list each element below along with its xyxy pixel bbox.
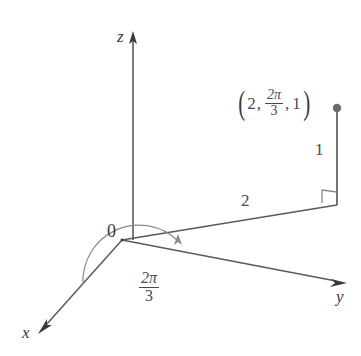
point-comma-1: , [257,95,261,112]
open-paren: ( [238,91,245,115]
close-paren: ) [303,91,310,115]
point-comma-2: , [285,95,289,112]
angle-denominator: 3 [139,288,159,305]
point-r: 2 [247,95,256,112]
origin-vertex [121,239,124,242]
radial-segment [122,205,337,240]
z-axis [129,31,137,240]
vertical-length-label: 1 [315,141,324,158]
point-marker [333,104,341,112]
z-axis-label: z [117,28,124,45]
origin-label: 0 [107,222,116,240]
point-theta-numerator: 2π [265,88,283,104]
x-axis [38,240,122,334]
y-axis-label: y [336,288,344,305]
angle-fraction: 2π 3 [139,270,159,305]
point-coordinate-label: ( 2 , 2π 3 , 1 ) [236,88,312,118]
point-z: 1 [292,95,301,112]
right-angle-icon [322,190,337,203]
angle-numerator: 2π [139,270,159,288]
angle-label: 2π 3 [139,270,159,305]
x-axis-label: x [22,324,30,341]
point-theta-fraction: 2π 3 [265,88,283,118]
coordinate-diagram [0,0,361,356]
radial-length-label: 2 [241,192,250,209]
point-theta-denominator: 3 [265,104,283,119]
